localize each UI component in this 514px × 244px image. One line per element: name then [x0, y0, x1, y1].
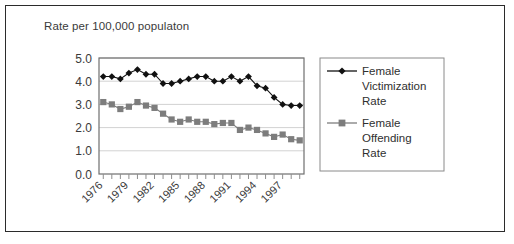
- data-point-marker: [203, 119, 209, 125]
- y-tick-label: 0.0: [75, 168, 92, 182]
- data-point-marker: [125, 70, 132, 77]
- data-point-marker: [194, 73, 201, 80]
- y-axis-tick-labels: 0.01.02.03.04.05.0: [75, 52, 92, 182]
- legend-marker-square-icon: [339, 120, 346, 127]
- series-2: [100, 99, 303, 143]
- y-tick-label: 2.0: [75, 121, 92, 135]
- y-tick-label: 1.0: [75, 144, 92, 158]
- data-point-marker: [117, 106, 123, 112]
- legend-label-line: Female: [362, 117, 400, 129]
- data-point-marker: [228, 120, 234, 126]
- data-point-marker: [134, 99, 140, 105]
- legend-label-line: Female: [362, 65, 400, 77]
- data-point-marker: [202, 73, 209, 80]
- data-point-marker: [211, 121, 217, 127]
- data-point-marker: [160, 111, 166, 117]
- data-point-marker: [237, 78, 244, 85]
- y-tick-label: 5.0: [75, 52, 92, 66]
- data-point-marker: [296, 102, 303, 109]
- data-point-marker: [228, 73, 235, 80]
- data-point-marker: [100, 99, 106, 105]
- data-point-marker: [109, 101, 115, 107]
- data-point-marker: [288, 136, 294, 142]
- data-point-marker: [211, 78, 218, 85]
- series-1: [100, 66, 303, 109]
- data-point-marker: [271, 134, 277, 140]
- data-point-marker: [262, 130, 268, 136]
- data-point-marker: [177, 119, 183, 125]
- data-point-marker: [194, 119, 200, 125]
- legend-label-line: Rate: [362, 147, 386, 159]
- data-point-marker: [143, 102, 149, 108]
- data-point-marker: [177, 78, 184, 85]
- data-point-marker: [151, 105, 157, 111]
- x-tick-label: 1988: [181, 179, 207, 205]
- data-point-marker: [186, 116, 192, 122]
- data-point-marker: [297, 137, 303, 143]
- line-chart: 0.01.02.03.04.05.01976197919821985198819…: [6, 6, 506, 233]
- figure-frame: Rate per 100,000 populaton 0.01.02.03.04…: [5, 5, 505, 232]
- data-point-marker: [220, 120, 226, 126]
- x-tick-label: 1991: [207, 179, 233, 205]
- x-axis-tick-labels: 19761979198219851988199119941997: [79, 179, 284, 205]
- data-point-marker: [100, 73, 107, 80]
- data-point-marker: [126, 104, 132, 110]
- legend-label-line: Offending: [362, 132, 412, 144]
- legend: FemaleVictimizationRateFemaleOffendingRa…: [320, 58, 444, 171]
- data-point-marker: [169, 116, 175, 122]
- x-tick-label: 1994: [233, 179, 259, 205]
- legend-label-line: Victimization: [362, 80, 426, 92]
- legend-label-line: Rate: [362, 95, 386, 107]
- data-point-marker: [219, 78, 226, 85]
- data-point-marker: [108, 73, 115, 80]
- x-tick-label: 1997: [258, 179, 284, 205]
- x-tick-label: 1985: [156, 179, 182, 205]
- chart-canvas: 0.01.02.03.04.05.01976197919821985198819…: [6, 6, 506, 233]
- data-point-marker: [134, 66, 141, 73]
- x-axis-ticks: [103, 174, 299, 179]
- series-line: [103, 70, 299, 106]
- data-point-marker: [245, 125, 251, 131]
- data-point-marker: [280, 131, 286, 137]
- x-tick-label: 1979: [105, 179, 131, 205]
- data-point-marker: [237, 127, 243, 133]
- data-point-marker: [254, 127, 260, 133]
- x-tick-label: 1976: [79, 179, 105, 205]
- x-tick-label: 1982: [130, 179, 156, 205]
- y-tick-label: 4.0: [75, 75, 92, 89]
- data-point-marker: [288, 102, 295, 109]
- data-point-marker: [143, 71, 150, 78]
- series-line: [103, 102, 299, 140]
- y-tick-label: 3.0: [75, 98, 92, 112]
